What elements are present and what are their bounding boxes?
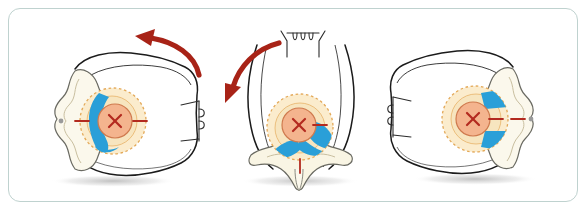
illustration-frame (8, 8, 578, 202)
rotation-arrow-down-left (225, 43, 279, 103)
panel-left-lateral-decubitus (13, 9, 203, 203)
needle-entry-point (529, 117, 534, 122)
figure-shadow (51, 175, 175, 187)
panel-prone-view (205, 9, 395, 203)
anterior-spine-glyph (281, 31, 325, 57)
needle-entry-point (59, 119, 64, 124)
figure-shadow (413, 173, 537, 185)
panel-right-lateral-decubitus (389, 9, 579, 203)
